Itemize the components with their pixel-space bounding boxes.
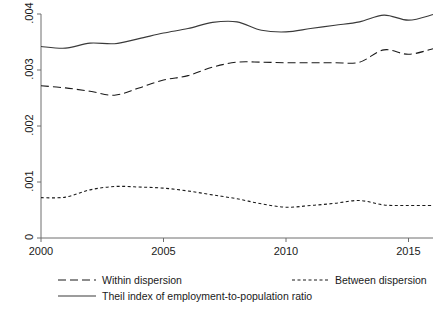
x-tick-label: 2015 <box>379 245 435 257</box>
series-line-1 <box>41 186 433 207</box>
legend-label-within: Within dispersion <box>102 274 182 286</box>
legend-label-between: Between dispersion <box>335 274 427 286</box>
x-tick-label: 2000 <box>11 245 71 257</box>
y-tick-label: .001 <box>23 161 35 201</box>
data-series-group <box>41 15 433 208</box>
chart-figure: 0.001.002.003.004 2000200520102015 Withi… <box>0 0 435 321</box>
x-tick-label: 2005 <box>134 245 194 257</box>
x-tick-label: 2010 <box>256 245 316 257</box>
y-tick-label: .002 <box>23 105 35 145</box>
x-axis-ticks <box>41 238 409 242</box>
series-line-2 <box>41 15 433 49</box>
y-axis-ticks <box>37 14 41 238</box>
y-tick-label: .003 <box>23 49 35 89</box>
plot-area <box>0 0 435 321</box>
series-line-0 <box>41 49 433 96</box>
axes <box>41 14 433 238</box>
legend-label-theil: Theil index of employment-to-population … <box>102 290 312 302</box>
y-tick-label: .004 <box>23 0 35 33</box>
